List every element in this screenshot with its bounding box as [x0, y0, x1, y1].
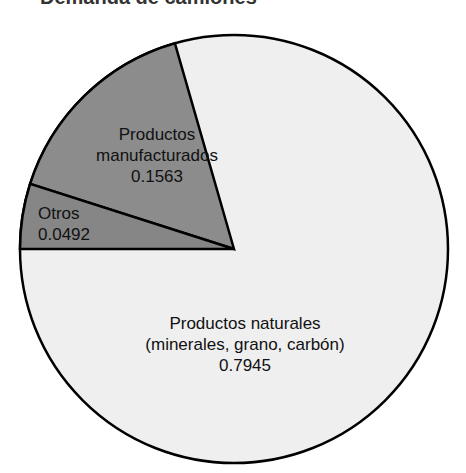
label-natural-line1: Productos naturales	[130, 313, 360, 334]
label-natural-value: 0.7945	[130, 355, 360, 376]
label-manufactured-value: 0.1563	[92, 166, 222, 187]
label-manufactured: Productos manufacturados 0.1563	[92, 124, 222, 187]
label-other-line1: Otros	[38, 203, 90, 224]
label-natural: Productos naturales (minerales, grano, c…	[130, 313, 360, 376]
label-manufactured-line2: manufacturados	[92, 145, 222, 166]
label-other: Otros 0.0492	[38, 203, 90, 245]
label-natural-line2: (minerales, grano, carbón)	[130, 334, 360, 355]
label-manufactured-line1: Productos	[92, 124, 222, 145]
label-other-value: 0.0492	[38, 224, 90, 245]
